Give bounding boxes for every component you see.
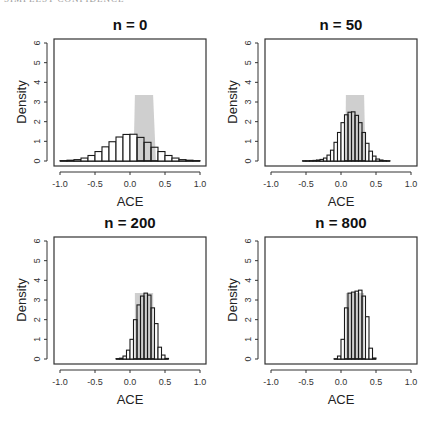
svg-text:-1.0: -1.0 bbox=[52, 377, 68, 387]
svg-text:0.5: 0.5 bbox=[159, 179, 172, 189]
x-axis-label: ACE bbox=[117, 194, 144, 209]
svg-text:6: 6 bbox=[32, 238, 42, 243]
histogram-bar bbox=[67, 160, 74, 161]
histogram-panel-n0: n = 00123456Density-1.0-0.50.00.51.0ACE bbox=[0, 14, 213, 226]
svg-text:3: 3 bbox=[243, 297, 253, 302]
svg-text:1.0: 1.0 bbox=[194, 179, 207, 189]
svg-text:0.0: 0.0 bbox=[335, 377, 348, 387]
histogram-bar bbox=[123, 134, 130, 161]
y-axis-label: Density bbox=[225, 80, 240, 124]
histogram-bar bbox=[116, 137, 123, 161]
histogram-bar bbox=[373, 358, 377, 359]
histogram-bar bbox=[172, 158, 179, 161]
histogram-bar bbox=[74, 160, 81, 161]
running-header: SIMPLEST CONFIDENCE bbox=[4, 0, 125, 4]
svg-text:0.5: 0.5 bbox=[159, 377, 172, 387]
svg-text:5: 5 bbox=[243, 258, 253, 263]
histogram-bar bbox=[109, 142, 116, 161]
histogram-panel-n200: n = 2000123456Density-1.0-0.50.00.51.0AC… bbox=[0, 212, 213, 424]
histogram-panel-n800: n = 8000123456Density-1.0-0.50.00.51.0AC… bbox=[211, 212, 424, 424]
svg-text:-0.5: -0.5 bbox=[87, 179, 103, 189]
y-axis-label: Density bbox=[225, 278, 240, 322]
svg-text:3: 3 bbox=[243, 99, 253, 104]
svg-text:4: 4 bbox=[32, 278, 42, 283]
x-axis-label: ACE bbox=[117, 392, 144, 407]
svg-text:4: 4 bbox=[32, 80, 42, 85]
svg-text:0.5: 0.5 bbox=[370, 179, 383, 189]
histogram-bar bbox=[137, 137, 144, 161]
svg-text:2: 2 bbox=[243, 317, 253, 322]
panel-title: n = 200 bbox=[104, 214, 155, 231]
histogram-bars bbox=[116, 293, 169, 359]
svg-text:0: 0 bbox=[32, 356, 42, 361]
panel-title: n = 50 bbox=[320, 16, 363, 33]
svg-text:0.0: 0.0 bbox=[124, 377, 137, 387]
svg-text:6: 6 bbox=[32, 40, 42, 45]
x-axis: -1.0-0.50.00.51.0 bbox=[263, 172, 417, 189]
svg-text:1: 1 bbox=[32, 337, 42, 342]
histogram-bar bbox=[88, 155, 95, 161]
svg-text:5: 5 bbox=[243, 60, 253, 65]
histogram-bar bbox=[144, 142, 151, 161]
svg-text:1.0: 1.0 bbox=[194, 377, 207, 387]
svg-text:0.0: 0.0 bbox=[124, 179, 137, 189]
y-axis: 0123456 bbox=[32, 238, 47, 361]
svg-text:1: 1 bbox=[32, 139, 42, 144]
histogram-bar bbox=[81, 158, 88, 161]
svg-text:0: 0 bbox=[243, 158, 253, 163]
svg-text:1.0: 1.0 bbox=[405, 377, 418, 387]
histogram-bars bbox=[303, 112, 391, 161]
svg-text:6: 6 bbox=[243, 40, 253, 45]
histogram-bar bbox=[179, 160, 186, 161]
svg-text:0: 0 bbox=[243, 356, 253, 361]
y-axis-label: Density bbox=[14, 80, 29, 124]
panel-title: n = 800 bbox=[315, 214, 366, 231]
svg-text:-1.0: -1.0 bbox=[263, 179, 279, 189]
svg-text:0: 0 bbox=[32, 158, 42, 163]
histogram-bar bbox=[102, 147, 109, 161]
x-axis: -1.0-0.50.00.51.0 bbox=[263, 370, 417, 387]
histogram-bar bbox=[158, 152, 165, 161]
svg-text:0.5: 0.5 bbox=[370, 377, 383, 387]
histogram-bar bbox=[95, 152, 102, 161]
svg-text:1: 1 bbox=[243, 337, 253, 342]
x-axis: -1.0-0.50.00.51.0 bbox=[52, 370, 206, 387]
svg-text:3: 3 bbox=[32, 99, 42, 104]
svg-text:4: 4 bbox=[243, 278, 253, 283]
histogram-panel-n50: n = 500123456Density-1.0-0.50.00.51.0ACE bbox=[211, 14, 424, 226]
svg-text:2: 2 bbox=[32, 317, 42, 322]
x-axis: -1.0-0.50.00.51.0 bbox=[52, 172, 206, 189]
svg-text:1.0: 1.0 bbox=[405, 179, 418, 189]
x-axis-label: ACE bbox=[328, 194, 355, 209]
histogram-bar bbox=[165, 155, 172, 161]
histogram-bar bbox=[186, 160, 193, 161]
histogram-bar bbox=[369, 348, 373, 359]
y-axis: 0123456 bbox=[243, 40, 258, 163]
svg-text:-1.0: -1.0 bbox=[52, 179, 68, 189]
svg-text:-1.0: -1.0 bbox=[263, 377, 279, 387]
histogram-bars bbox=[334, 290, 376, 359]
svg-text:6: 6 bbox=[243, 238, 253, 243]
y-axis: 0123456 bbox=[32, 40, 47, 163]
svg-text:2: 2 bbox=[32, 119, 42, 124]
histogram-bar bbox=[165, 358, 169, 359]
histogram-bar bbox=[151, 147, 158, 161]
svg-text:3: 3 bbox=[32, 297, 42, 302]
svg-text:0.0: 0.0 bbox=[335, 179, 348, 189]
svg-text:1: 1 bbox=[243, 139, 253, 144]
histogram-bars bbox=[60, 134, 200, 161]
svg-text:4: 4 bbox=[243, 80, 253, 85]
page-header: SIMPLEST CONFIDENCE bbox=[0, 0, 427, 4]
svg-text:-0.5: -0.5 bbox=[298, 377, 314, 387]
svg-text:5: 5 bbox=[32, 60, 42, 65]
svg-text:-0.5: -0.5 bbox=[87, 377, 103, 387]
svg-text:2: 2 bbox=[243, 119, 253, 124]
x-axis-label: ACE bbox=[328, 392, 355, 407]
svg-text:5: 5 bbox=[32, 258, 42, 263]
panel-title: n = 0 bbox=[113, 16, 148, 33]
histogram-bar bbox=[130, 134, 137, 161]
y-axis-label: Density bbox=[14, 278, 29, 322]
svg-text:-0.5: -0.5 bbox=[298, 179, 314, 189]
y-axis: 0123456 bbox=[243, 238, 258, 361]
